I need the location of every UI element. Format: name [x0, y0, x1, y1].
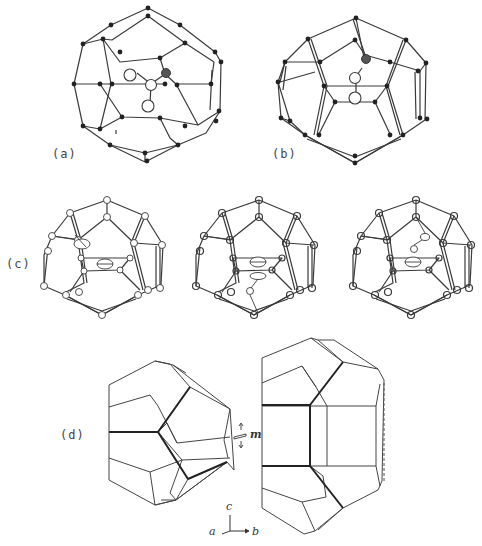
axes-indicator: [222, 515, 249, 534]
panel-label-a: (a): [52, 147, 77, 161]
panel-label-c: (c): [6, 257, 31, 271]
mirror-label: m: [250, 428, 262, 441]
panel-d-right-polyhedron: [262, 338, 384, 534]
panel-b-guest-atoms: [349, 73, 361, 105]
panel-a-shaded-atom: [162, 69, 171, 78]
figure-canvas: [0, 0, 482, 546]
panel-label-d: (d): [60, 428, 85, 442]
panel-b-shaded-atom: [362, 55, 371, 64]
panel-d-right-bold-edges: [262, 362, 343, 508]
panel-b-vertex-atoms: [276, 16, 430, 166]
axis-label-c: c: [226, 500, 232, 513]
mirror-plane-symbol: [234, 423, 246, 448]
axis-label-a: a: [209, 525, 216, 538]
panel-label-b: (b): [272, 147, 297, 161]
axis-label-b: b: [252, 525, 259, 538]
